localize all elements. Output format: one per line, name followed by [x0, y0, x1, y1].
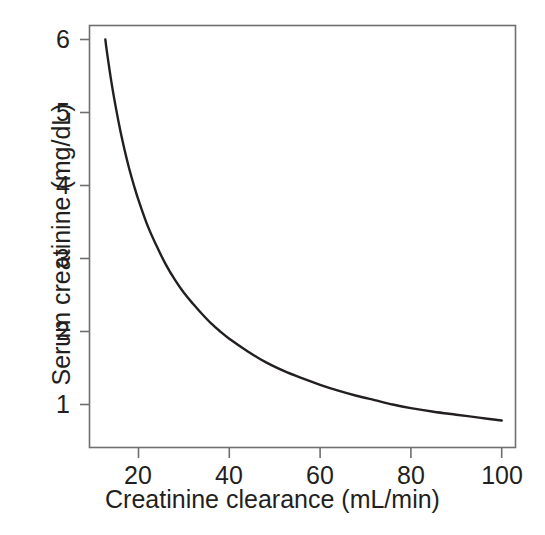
- plot-canvas: [0, 0, 545, 535]
- y-axis-ticks: [80, 40, 90, 405]
- chart-figure: 6 5 4 3 2 1 20 40 60 80 100 Creatinine c…: [0, 0, 545, 535]
- x-tick-label-100: 100: [481, 463, 523, 488]
- x-axis-title: Creatinine clearance (mL/min): [0, 487, 545, 512]
- y-axis-title: Serum creatinine (mg/dL): [49, 35, 74, 455]
- x-axis-ticks: [139, 448, 502, 459]
- data-series-line: [105, 40, 501, 421]
